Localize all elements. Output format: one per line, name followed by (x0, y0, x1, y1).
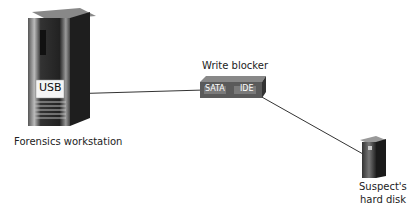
ide-port-label: IDE (240, 84, 254, 93)
suspect-label-line1: Suspect's (359, 181, 407, 192)
usb-port-label: USB (39, 81, 62, 94)
workstation-label: Forensics workstation (14, 136, 122, 147)
diagram-canvas (0, 0, 418, 208)
ide-to-disk-cable (260, 96, 363, 154)
suspect-hard-disk-icon (360, 136, 386, 178)
workstation-tower-icon (28, 8, 96, 126)
sata-port-label: SATA (205, 84, 225, 93)
write-blocker-label: Write blocker (202, 60, 268, 71)
suspect-label-line2: hard disk (360, 194, 406, 205)
